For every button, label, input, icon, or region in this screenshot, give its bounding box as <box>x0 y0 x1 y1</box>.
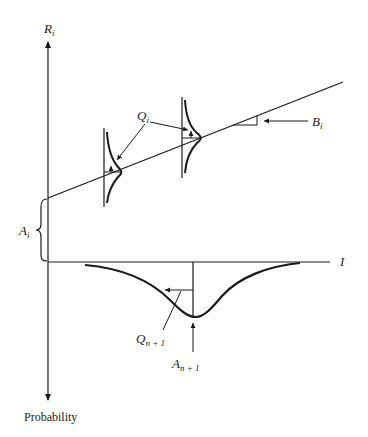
a-i-label: Ai <box>18 223 30 240</box>
left-normal-distribution <box>104 128 121 207</box>
regression-line <box>48 82 343 198</box>
right-normal-distribution <box>182 97 201 178</box>
q-n1-label: Qn + 1 <box>136 331 165 348</box>
probability-axis-label: Probability <box>24 410 77 424</box>
i-axis-label: I <box>339 254 345 269</box>
r-i-axis-label: Ri <box>43 21 55 38</box>
a-i-brace <box>36 199 47 261</box>
b-i-label: Bi <box>312 114 323 131</box>
regression-diagram: Qi Bi Ai Qn + 1 An + 1 Ri I Probability <box>0 0 368 437</box>
a-n1-label: An + 1 <box>171 356 200 373</box>
q-i-pointers <box>117 122 188 160</box>
q-i-label: Qi <box>137 108 149 125</box>
